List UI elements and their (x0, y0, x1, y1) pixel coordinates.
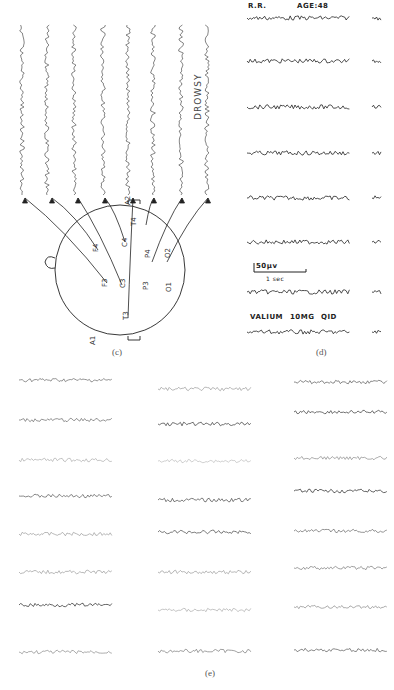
eeg-trace (247, 196, 349, 200)
electrode-f3: F3 (101, 279, 109, 287)
eeg-trace (247, 240, 349, 244)
arrow (128, 198, 133, 318)
eeg-trace (19, 650, 112, 654)
eeg-trace (158, 570, 251, 574)
medication-frequency: QID (321, 313, 337, 321)
eeg-trace (372, 105, 381, 108)
eeg-trace (247, 16, 349, 20)
eeg-trace (247, 105, 349, 109)
panel-d-traces (247, 16, 381, 334)
electrode-p4: P4 (144, 249, 152, 258)
arrow-head (23, 198, 28, 203)
eeg-trace (294, 648, 387, 651)
scale-amplitude: 50μv (256, 262, 277, 270)
arrow (25, 198, 107, 283)
drowsy-label: DROWSY (193, 74, 203, 120)
eeg-trace (179, 25, 184, 195)
panel-e-traces (19, 379, 387, 654)
eeg-trace (158, 608, 251, 611)
eeg-figure: F3F4C3C4T3T4P3P4O1O2A1A2 DROWSY (0, 0, 394, 690)
eeg-trace (247, 151, 349, 155)
eeg-trace (158, 498, 251, 502)
eeg-trace (247, 290, 349, 294)
electrode-labels: F3F4C3C4T3T4P3P4O1O2A1A2 (89, 196, 173, 345)
arrow-head (50, 198, 55, 203)
eeg-trace (158, 530, 251, 534)
eeg-trace (19, 458, 112, 462)
medication-dose: 10MG (290, 313, 314, 321)
patient-initials: R.R. (248, 2, 266, 10)
electrode-t3: T3 (122, 311, 130, 321)
scale-time: 1 sec (266, 275, 284, 282)
eeg-trace (45, 25, 50, 195)
eeg-trace (294, 605, 387, 608)
eeg-trace (294, 566, 387, 570)
eeg-trace (372, 196, 381, 199)
medication-name: VALIUM (250, 313, 283, 321)
eeg-trace (372, 151, 381, 154)
eeg-trace (19, 418, 112, 422)
panel-e-label: (e) (205, 668, 215, 678)
eeg-trace (19, 603, 112, 607)
patient-age: AGE:48 (297, 2, 329, 10)
eeg-trace (294, 529, 387, 532)
electrode-o2: O2 (164, 248, 172, 258)
eeg-trace (158, 649, 251, 653)
head-diagram (45, 200, 185, 340)
eeg-trace (101, 25, 106, 195)
eeg-trace (126, 25, 131, 195)
electrode-t4: T4 (130, 217, 138, 227)
arrow (167, 198, 208, 262)
eeg-trace (372, 60, 381, 63)
eeg-trace (158, 459, 251, 462)
electrode-arrows (23, 198, 211, 318)
eeg-trace (247, 59, 349, 63)
eeg-trace (372, 291, 381, 294)
eeg-trace (294, 489, 387, 493)
eeg-trace (151, 25, 156, 195)
eeg-trace (72, 25, 77, 195)
eeg-trace (19, 570, 112, 574)
eeg-trace (19, 494, 112, 498)
eeg-trace (158, 422, 251, 426)
arrow (78, 198, 122, 285)
electrode-o1: O1 (165, 282, 173, 292)
eeg-trace (372, 17, 381, 20)
electrode-c4: C4 (121, 237, 129, 247)
eeg-trace (19, 532, 112, 536)
panel-c-label: (c) (112, 347, 122, 357)
arrow (52, 198, 98, 250)
eeg-trace (294, 410, 387, 413)
eeg-trace (372, 330, 381, 333)
eeg-trace (294, 380, 387, 383)
panel-c-traces (20, 25, 210, 195)
eeg-trace (19, 379, 112, 382)
eeg-trace (247, 330, 349, 334)
eeg-trace (158, 387, 251, 391)
electrode-a2: A2 (124, 196, 132, 205)
eeg-trace (294, 456, 387, 459)
eeg-trace (372, 240, 381, 243)
electrode-a1: A1 (89, 336, 97, 345)
eeg-trace (20, 25, 25, 195)
panel-d-label: (d) (316, 347, 327, 357)
electrode-p3: P3 (142, 281, 150, 290)
eeg-trace (205, 25, 210, 195)
